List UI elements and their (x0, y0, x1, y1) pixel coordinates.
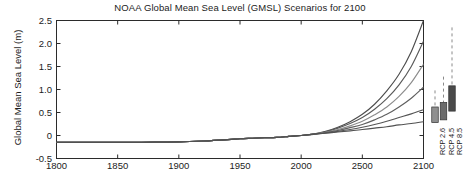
y-axis-title: Global Mean Sea Level (m) (12, 8, 23, 168)
y-tick-label: 1.5 (26, 62, 52, 72)
chart-title: NOAA Global Mean Sea Level (GMSL) Scenar… (56, 2, 424, 13)
x-tick-label: 2500 (342, 160, 382, 171)
y-tick-label: 1.0 (26, 85, 52, 95)
rcp-markers (432, 27, 456, 122)
scenario-curve (57, 87, 424, 142)
x-tick-label: 1850 (98, 160, 138, 171)
axis-frame (57, 21, 424, 159)
x-tick-label: 2000 (281, 160, 321, 171)
axis-ticks (57, 21, 424, 159)
y-tick-label: 0.5 (26, 108, 52, 118)
x-axis-tick-labels: 1800185019001950200025002100 (0, 160, 467, 176)
rcp-label: RCP 8.5 (455, 128, 464, 155)
scenario-curve (57, 64, 424, 142)
rcp-box (440, 102, 447, 119)
chart-figure: NOAA Global Mean Sea Level (GMSL) Scenar… (0, 0, 467, 191)
rcp-box (449, 86, 456, 111)
y-tick-label: 2.5 (26, 16, 52, 26)
x-tick-label: 1800 (37, 160, 77, 171)
y-tick-label: 2.0 (26, 39, 52, 49)
scenario-curves (57, 21, 424, 143)
scenario-curve (57, 122, 424, 143)
x-tick-label: 2100 (404, 160, 444, 171)
x-tick-label: 1950 (220, 160, 260, 171)
x-tick-label: 1900 (159, 160, 199, 171)
rcp-label: RCP 2.6 (438, 128, 447, 155)
scenario-curve (57, 21, 424, 143)
rcp-box (432, 107, 439, 123)
scenario-curve (57, 110, 424, 143)
scenario-curve (57, 41, 424, 142)
y-tick-label: 0 (26, 131, 52, 141)
